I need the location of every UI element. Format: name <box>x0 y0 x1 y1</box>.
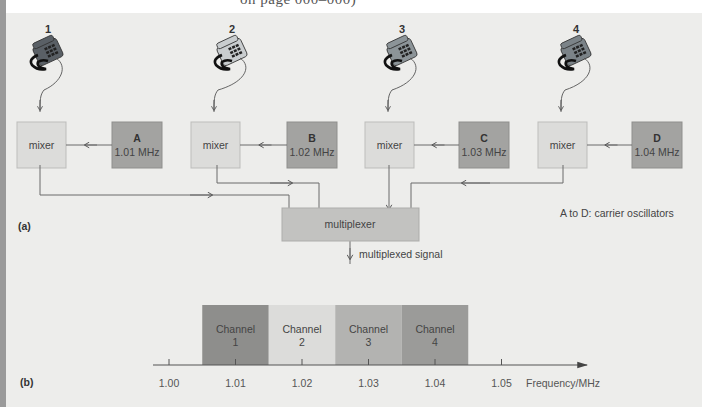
oscillator-frequency: 1.04 MHz <box>635 146 680 158</box>
multiplexer-label: multiplexer <box>325 218 376 230</box>
phone-number-label: 2 <box>229 23 235 35</box>
oscillator-letter: B <box>308 132 316 144</box>
channel-label: Channel <box>216 323 255 335</box>
telephone-icon: 2 <box>214 23 248 70</box>
axis-tick-label: 1.04 <box>425 377 446 389</box>
mixer-label: mixer <box>29 139 55 151</box>
axis-tick-label: 1.03 <box>358 377 379 389</box>
oscillator-frequency: 1.01 MHz <box>115 146 160 158</box>
channel-band-rect <box>202 305 269 365</box>
part-a-label: (a) <box>18 220 31 232</box>
part-b-label: (b) <box>20 376 33 388</box>
telephone-icon: 1 <box>30 23 64 70</box>
oscillator-letter: C <box>480 132 488 144</box>
phone-cord <box>40 58 62 112</box>
multiplexed-signal-label: multiplexed signal <box>359 248 442 260</box>
channel-label: Channel <box>349 323 388 335</box>
oscillator-letter: A <box>133 132 141 144</box>
oscillator-frequency: 1.02 MHz <box>290 146 335 158</box>
fdm-diagram: 1234 mixermixermixermixer A1.01 MHzB1.02… <box>0 0 710 407</box>
channel-band-3: Channel3 <box>335 305 402 365</box>
oscillator-frequency: 1.03 MHz <box>462 146 507 158</box>
telephone-icon: 4 <box>558 23 592 70</box>
channel-label: Channel <box>415 323 454 335</box>
axis-tick-label: 1.01 <box>225 377 246 389</box>
frequency-axis-label: Frequency/MHz <box>526 377 600 389</box>
phone-number-label: 1 <box>45 23 51 35</box>
mixer-block: mixer <box>365 122 414 168</box>
channel-number: 2 <box>299 336 305 348</box>
mixer-label: mixer <box>377 139 403 151</box>
mixer-block: mixer <box>17 122 66 168</box>
carrier-oscillator-d: D1.04 MHz <box>587 122 682 168</box>
oscillator-letter: D <box>653 132 661 144</box>
wire-mixer4-to-mux <box>411 165 563 209</box>
telephone-icon: 3 <box>384 23 418 70</box>
channel-band-4: Channel4 <box>402 305 469 365</box>
mixer-label: mixer <box>203 139 229 151</box>
axis-tick-label: 1.02 <box>292 377 313 389</box>
channel-number: 4 <box>432 336 438 348</box>
channel-band-1: Channel1 <box>202 305 269 365</box>
channel-band-2: Channel2 <box>269 305 336 365</box>
legend-note: A to D: carrier oscillators <box>560 207 674 219</box>
channel-band-rect <box>269 305 336 365</box>
channel-band-rect <box>335 305 402 365</box>
carrier-oscillator-a: A1.01 MHz <box>66 122 162 168</box>
mixer-label: mixer <box>550 139 576 151</box>
channel-label: Channel <box>282 323 321 335</box>
channel-number: 3 <box>366 336 372 348</box>
axis-tick-label: 1.00 <box>159 377 180 389</box>
carrier-oscillator-b: B1.02 MHz <box>240 122 337 168</box>
mixer-block: mixer <box>191 122 240 168</box>
wire-mixer2-to-mux <box>217 165 319 209</box>
channel-number: 1 <box>233 336 239 348</box>
carrier-oscillator-c: C1.03 MHz <box>414 122 509 168</box>
phone-number-label: 3 <box>399 23 405 35</box>
mixer-block: mixer <box>538 122 587 168</box>
phone-number-label: 4 <box>573 23 580 35</box>
channel-band-rect <box>402 305 469 365</box>
wire-mixer1-to-mux <box>40 165 289 209</box>
axis-tick-label: 1.05 <box>491 377 512 389</box>
